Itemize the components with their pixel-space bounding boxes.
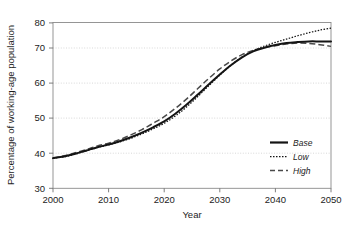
x-tick-label-2040: 2040 — [265, 194, 286, 205]
x-axis-tick-labels: 2000 2010 2020 2030 2040 2050 — [42, 194, 341, 205]
plot-frame — [53, 23, 331, 189]
y-axis-tick-labels: 30 40 50 60 70 80 — [34, 17, 45, 193]
legend-label-base: Base — [293, 138, 313, 148]
legend-label-high: High — [293, 166, 311, 176]
legend-label-low: Low — [293, 152, 309, 162]
line-chart: 30 40 50 60 70 80 2000 2010 2020 2030 20… — [0, 0, 348, 226]
series-lines — [53, 28, 331, 158]
x-tick-label-2030: 2030 — [209, 194, 230, 205]
x-tick-label-2050: 2050 — [320, 194, 341, 205]
series-line-base — [53, 41, 331, 158]
y-tick-label-50: 50 — [34, 112, 45, 123]
y-tick-label-80: 80 — [34, 17, 45, 28]
y-axis-title: Percentage of working-age population — [5, 25, 16, 185]
y-tick-label-60: 60 — [34, 77, 45, 88]
x-tick-label-2010: 2010 — [98, 194, 119, 205]
x-tick-label-2020: 2020 — [154, 194, 175, 205]
x-axis-ticks — [53, 188, 331, 192]
y-tick-label-40: 40 — [34, 148, 45, 159]
x-tick-label-2000: 2000 — [42, 194, 63, 205]
chart-figure: 30 40 50 60 70 80 2000 2010 2020 2030 20… — [0, 0, 348, 226]
y-axis-ticks — [49, 23, 53, 188]
legend: Base Low High — [270, 138, 313, 176]
y-tick-label-70: 70 — [34, 42, 45, 53]
y-tick-label-30: 30 — [34, 183, 45, 194]
x-axis-title: Year — [182, 209, 201, 220]
